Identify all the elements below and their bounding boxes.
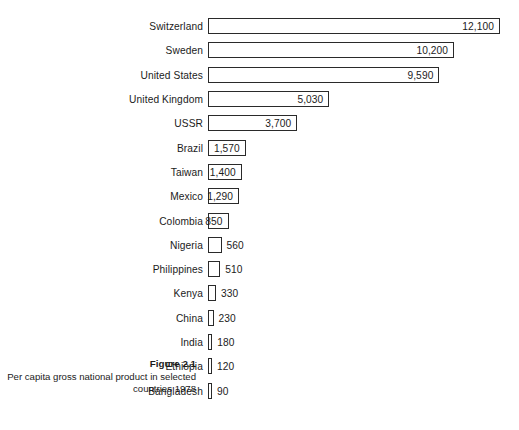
bar-category-label: Brazil — [177, 142, 203, 153]
bar-value-label: 120 — [217, 361, 234, 372]
bar-value-label: 850 — [205, 215, 222, 226]
bar-track: 120 — [208, 358, 519, 374]
bar-category-label: Kenya — [174, 288, 203, 299]
bar-category-label: Mexico — [170, 191, 203, 202]
bar-value-label: 560 — [227, 239, 244, 250]
bar-category-label: Nigeria — [170, 239, 203, 250]
bar-value-label: 230 — [219, 312, 236, 323]
bar-category-label: USSR — [174, 118, 203, 129]
bar-row: USSR3,700 — [0, 111, 519, 135]
bar-row: India180 — [0, 330, 519, 354]
bar-row: Nigeria560 — [0, 233, 519, 257]
bar-row: Colombia850 — [0, 208, 519, 232]
bar-value-label: 510 — [225, 264, 242, 275]
bar-track: 9,590 — [208, 67, 519, 83]
bar-track: 1,570 — [208, 140, 519, 156]
bar-row: Brazil1,570 — [0, 135, 519, 159]
bar — [208, 261, 220, 277]
bar-value-label: 3,700 — [265, 118, 291, 129]
bar-track: 90 — [208, 383, 519, 399]
bar — [208, 358, 212, 374]
bar-category-label: Taiwan — [171, 166, 203, 177]
bar-category-label: Philippines — [153, 264, 203, 275]
bar-chart: Switzerland12,100Sweden10,200United Stat… — [0, 14, 519, 403]
bar-track: 330 — [208, 285, 519, 301]
bar-category-label: India — [180, 337, 203, 348]
bar-row: China230 — [0, 306, 519, 330]
bar-value-label: 90 — [217, 385, 229, 396]
bar — [208, 285, 216, 301]
bar-value-label: 330 — [221, 288, 238, 299]
figure-caption: Figure 2.1 Per capita gross national pro… — [0, 358, 196, 396]
bar-track: 12,100 — [208, 18, 519, 34]
bar-value-label: 9,590 — [407, 69, 433, 80]
bar-row: Kenya330 — [0, 281, 519, 305]
bar-value-label: 5,030 — [297, 94, 323, 105]
bar — [208, 310, 214, 326]
bar-row: Mexico1,290 — [0, 184, 519, 208]
bar-row: Taiwan1,400 — [0, 160, 519, 184]
bar-track: 180 — [208, 334, 519, 350]
bar-category-label: Sweden — [166, 45, 203, 56]
bar-track: 5,030 — [208, 91, 519, 107]
bar-row: Switzerland12,100 — [0, 14, 519, 38]
figure-caption-title: Figure 2.1 — [0, 358, 196, 371]
bar-row: Philippines510 — [0, 257, 519, 281]
bar-category-label: Switzerland — [149, 21, 203, 32]
bar — [208, 383, 212, 399]
bar-track: 850 — [208, 213, 519, 229]
bar-row: United States9,590 — [0, 63, 519, 87]
bar-track: 1,400 — [208, 164, 519, 180]
bar-category-label: United Kingdom — [129, 94, 203, 105]
bar-category-label: United States — [141, 69, 203, 80]
figure-container: Switzerland12,100Sweden10,200United Stat… — [0, 0, 519, 430]
bar-track: 1,290 — [208, 188, 519, 204]
bar-row: Sweden10,200 — [0, 38, 519, 62]
figure-caption-body: Per capita gross national product in sel… — [0, 371, 196, 396]
bar-value-label: 1,290 — [207, 191, 233, 202]
bar-track: 510 — [208, 261, 519, 277]
bar-track: 10,200 — [208, 42, 519, 58]
bar-track: 230 — [208, 310, 519, 326]
bar — [208, 67, 439, 83]
bar-value-label: 1,570 — [214, 142, 240, 153]
bar-value-label: 12,100 — [462, 21, 494, 32]
bar-value-label: 180 — [217, 337, 234, 348]
bar — [208, 237, 222, 253]
bar-row: United Kingdom5,030 — [0, 87, 519, 111]
bar-category-label: China — [176, 312, 203, 323]
bar — [208, 18, 500, 34]
bar-value-label: 1,400 — [210, 166, 236, 177]
bar-value-label: 10,200 — [416, 45, 448, 56]
bar-track: 560 — [208, 237, 519, 253]
bar-category-label: Colombia — [159, 215, 203, 226]
bar-track: 3,700 — [208, 115, 519, 131]
bar — [208, 334, 212, 350]
